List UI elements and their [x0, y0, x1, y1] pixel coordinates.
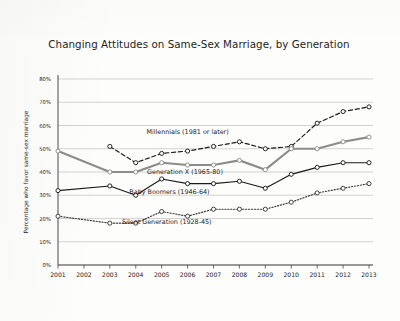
- y-axis-tick-labels: 0%10%20%30%40%50%60%70%80%: [39, 76, 51, 268]
- y-axis-tick-label: 50%: [39, 146, 51, 152]
- x-axis-tick-label: 2001: [50, 271, 66, 278]
- data-point-marker: [211, 163, 215, 167]
- x-axis-tick-label: 2010: [283, 271, 299, 278]
- x-axis-tick-label: 2003: [102, 271, 118, 278]
- data-series-layer: [56, 105, 371, 225]
- data-point-marker: [237, 207, 241, 211]
- line-chart: 0%10%20%30%40%50%60%70%80% 2001200220032…: [14, 20, 384, 302]
- y-axis-tick-label: 10%: [39, 239, 51, 245]
- data-point-marker: [315, 165, 319, 169]
- data-point-marker: [289, 147, 293, 151]
- data-point-marker: [186, 149, 190, 153]
- x-axis-tick-label: 2005: [154, 271, 170, 278]
- data-point-marker: [315, 191, 319, 195]
- data-point-marker: [263, 147, 267, 151]
- data-point-marker: [263, 186, 267, 190]
- data-point-marker: [160, 209, 164, 213]
- data-point-marker: [108, 170, 112, 174]
- data-point-marker: [186, 182, 190, 186]
- data-point-marker: [367, 182, 371, 186]
- y-axis-title: Percentage who favor same-sex marriage: [23, 110, 30, 233]
- y-axis-tick-label: 60%: [39, 123, 51, 129]
- data-point-marker: [237, 179, 241, 183]
- data-point-marker: [108, 184, 112, 188]
- data-point-marker: [263, 168, 267, 172]
- series-label-2: Generation X (1965-80): [147, 168, 223, 176]
- data-point-marker: [56, 149, 60, 153]
- x-axis-tick-label: 2007: [206, 271, 222, 278]
- x-axis-tick-label: 2006: [180, 271, 196, 278]
- data-point-marker: [289, 172, 293, 176]
- data-point-marker: [134, 161, 138, 165]
- y-axis-tick-label: 80%: [39, 76, 51, 82]
- data-point-marker: [341, 140, 345, 144]
- data-point-marker: [160, 161, 164, 165]
- data-point-marker: [56, 189, 60, 193]
- y-axis-tick-label: 40%: [39, 169, 51, 175]
- x-axis-tick-label: 2004: [128, 271, 144, 278]
- data-point-marker: [134, 170, 138, 174]
- data-point-marker: [160, 177, 164, 181]
- series-label-3: Baby Boomers (1946-64): [129, 188, 209, 196]
- series-label-1: Millennials (1981 or later): [146, 128, 228, 136]
- y-axis-tick-label: 30%: [39, 192, 51, 198]
- data-point-marker: [315, 121, 319, 125]
- plot-area: 0%10%20%30%40%50%60%70%80% 2001200220032…: [14, 20, 384, 302]
- x-axis-tick-label: 2012: [335, 271, 351, 278]
- data-point-marker: [263, 207, 267, 211]
- data-point-marker: [341, 110, 345, 114]
- y-axis-tick-label: 0%: [43, 262, 51, 268]
- data-point-marker: [237, 140, 241, 144]
- data-point-marker: [108, 221, 112, 225]
- y-axis-title-text: Percentage who favor same-sex marriage: [23, 110, 30, 233]
- data-point-marker: [211, 182, 215, 186]
- series-line: [58, 184, 369, 224]
- figure-frame: Changing Attitudes on Same-Sex Marriage,…: [14, 20, 384, 302]
- data-point-marker: [341, 161, 345, 165]
- data-point-marker: [367, 105, 371, 109]
- y-axis-tick-label: 70%: [39, 99, 51, 105]
- data-point-marker: [160, 151, 164, 155]
- x-axis-tick-label: 2011: [309, 271, 325, 278]
- data-point-marker: [367, 161, 371, 165]
- data-point-marker: [211, 144, 215, 148]
- data-point-marker: [315, 147, 319, 151]
- series-label-4: Silent Generation (1928-45): [122, 218, 212, 226]
- data-point-marker: [108, 144, 112, 148]
- x-axis-tick-label: 2008: [232, 271, 248, 278]
- data-point-marker: [56, 214, 60, 218]
- data-point-marker: [211, 207, 215, 211]
- data-point-marker: [186, 163, 190, 167]
- data-point-marker: [367, 135, 371, 139]
- x-axis-tick-labels: 2001200220032004200520062007200820092010…: [50, 271, 377, 278]
- data-point-marker: [289, 200, 293, 204]
- data-point-marker: [341, 186, 345, 190]
- scanned-page: Changing Attitudes on Same-Sex Marriage,…: [0, 0, 400, 321]
- x-axis-tick-label: 2009: [258, 271, 274, 278]
- x-axis-tick-label: 2002: [76, 271, 92, 278]
- data-point-marker: [237, 158, 241, 162]
- y-axis-tick-label: 20%: [39, 216, 51, 222]
- x-axis-tickmarks: [58, 265, 369, 269]
- x-axis-tick-label: 2013: [361, 271, 377, 278]
